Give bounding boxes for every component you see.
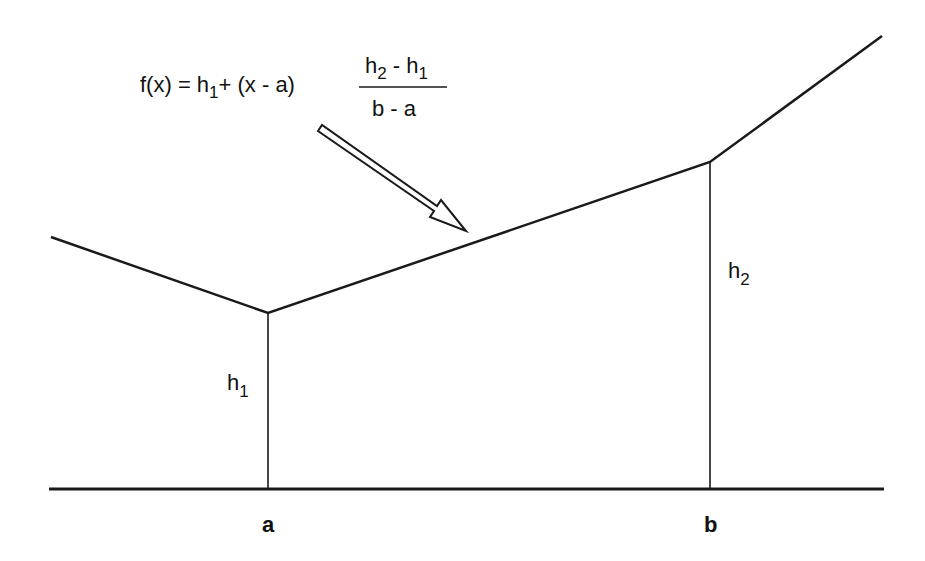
formula-lhs: f(x) = h1+ (x - a) [140,72,295,102]
formula-numerator: h2 - h1 [365,53,428,83]
pointer-arrow-icon [318,125,466,231]
h2-label: h2 [728,258,750,289]
h1-label: h1 [227,370,249,401]
formula-denominator: b - a [372,96,417,121]
formula: f(x) = h1+ (x - a) h2 - h1 b - a [140,53,447,121]
a-label: a [262,512,275,537]
interpolation-diagram: f(x) = h1+ (x - a) h2 - h1 b - a h1 h2 a… [0,0,925,561]
b-label: b [704,512,717,537]
